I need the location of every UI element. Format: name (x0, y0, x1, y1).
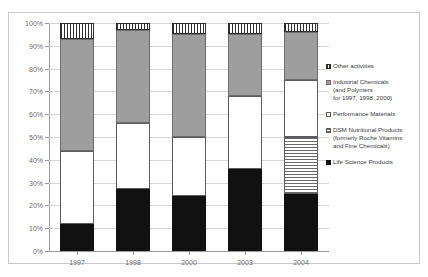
legend-label: Performance Materials (333, 110, 395, 118)
bar-segment (60, 224, 94, 251)
bar-segment (172, 137, 206, 196)
legend-item: DSM Nutritional Products (formerly Roche… (326, 126, 421, 150)
y-axis-tick (45, 46, 49, 47)
bar-segment (284, 23, 318, 32)
legend-swatch-icon (326, 80, 331, 85)
y-axis-tick (45, 114, 49, 115)
legend-item: Life Science Products (326, 158, 421, 166)
bar-segment (60, 151, 94, 224)
legend-swatch-icon (326, 160, 331, 165)
x-axis-tick (133, 251, 134, 255)
bar-segment (172, 196, 206, 251)
bar-2000 (172, 23, 206, 251)
x-axis-tick (77, 251, 78, 255)
bar-segment (228, 169, 262, 251)
y-axis-tick (45, 91, 49, 92)
y-axis-label: 50% (29, 134, 43, 141)
legend-label: Other activities (333, 62, 374, 70)
bar-segment (116, 123, 150, 189)
y-axis-tick (45, 160, 49, 161)
y-axis-tick (45, 137, 49, 138)
y-axis-label: 20% (29, 202, 43, 209)
x-axis-labels-group: 19971998200020032004 (49, 251, 329, 271)
legend-swatch-icon (326, 112, 331, 117)
stacked-bar-chart-figure: 0%10%20%30%40%50%60%70%80%90%100% 199719… (0, 0, 428, 277)
bar-segment (116, 23, 150, 30)
y-axis-label: 0% (33, 248, 43, 255)
bar-segment (284, 194, 318, 251)
legend-swatch-icon (326, 128, 331, 133)
bar-1997 (60, 23, 94, 251)
legend-swatch-icon (326, 64, 331, 69)
bar-segment (116, 189, 150, 251)
legend-label: Life Science Products (333, 158, 393, 166)
top-caption-sliver (8, 0, 238, 9)
bar-segment (284, 32, 318, 80)
bar-segment (228, 34, 262, 96)
y-axis-label: 30% (29, 179, 43, 186)
x-axis-tick (245, 251, 246, 255)
x-axis-label: 2004 (293, 259, 309, 266)
x-axis-label: 2000 (181, 259, 197, 266)
y-axis-label: 100% (25, 20, 43, 27)
y-axis-tick (45, 69, 49, 70)
bar-segment (284, 137, 318, 194)
x-axis-tick (301, 251, 302, 255)
legend-label: Industrial Chemicals (and Polymers for 1… (333, 78, 392, 102)
bar-segment (228, 96, 262, 169)
bar-segment (284, 80, 318, 137)
y-axis-label: 10% (29, 225, 43, 232)
bar-segment (228, 23, 262, 34)
chart-legend: Other activitiesIndustrial Chemicals (an… (326, 62, 421, 174)
legend-label: DSM Nutritional Products (formerly Roche… (333, 126, 402, 150)
bar-segment (60, 39, 94, 151)
plot-area: 0%10%20%30%40%50%60%70%80%90%100% 199719… (49, 23, 329, 251)
legend-item: Other activities (326, 62, 421, 70)
y-axis-tick (45, 205, 49, 206)
y-axis-label: 40% (29, 156, 43, 163)
bar-segment (172, 23, 206, 34)
y-axis-label: 80% (29, 65, 43, 72)
x-axis-label: 1998 (125, 259, 141, 266)
legend-item: Performance Materials (326, 110, 421, 118)
x-axis-label: 2003 (237, 259, 253, 266)
x-axis-label: 1997 (69, 259, 85, 266)
bar-segment (116, 30, 150, 123)
x-axis-tick (189, 251, 190, 255)
legend-item: Industrial Chemicals (and Polymers for 1… (326, 78, 421, 102)
y-axis-label: 90% (29, 42, 43, 49)
y-axis-tick (45, 228, 49, 229)
y-axis-label: 70% (29, 88, 43, 95)
bar-1998 (116, 23, 150, 251)
y-axis-tick (45, 23, 49, 24)
y-axis-label: 60% (29, 111, 43, 118)
bar-2003 (228, 23, 262, 251)
bar-segment (172, 34, 206, 137)
y-axis-tick (45, 183, 49, 184)
bar-2004 (284, 23, 318, 251)
bar-segment (60, 23, 94, 39)
